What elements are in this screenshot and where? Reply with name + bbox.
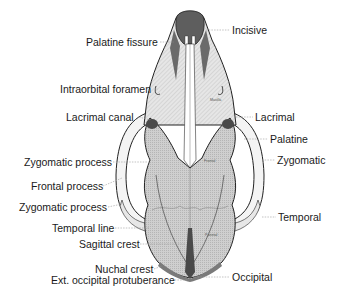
label-ext-occipital-protuberance: Ext. occipital protuberance [51,274,175,286]
bone-label-frontal: Frontal [204,159,215,163]
label-zygomatic: Zygomatic [277,154,325,166]
label-occipital: Occipital [232,271,272,283]
label-sagittal-crest: Sagittal crest [79,238,140,250]
label-incisive: Incisive [232,24,267,36]
label-zygomatic-process-1: Zygomatic process [24,156,112,168]
label-lacrimal-canal: Lacrimal canal [66,111,134,123]
bone-label-parietal: Parietal [205,233,217,237]
skull-diagram: Maxilla Frontal Parietal Palatine fissur… [0,0,338,298]
label-frontal-process: Frontal process [31,180,103,192]
label-temporal: Temporal [278,211,321,223]
skull-drawing [0,0,338,298]
label-intraorbital-foramen: Intraorbital foramen [60,83,151,95]
label-lacrimal: Lacrimal [255,111,295,123]
label-palatine-fissure: Palatine fissure [86,36,158,48]
bone-label-maxilla: Maxilla [210,98,221,102]
label-temporal-line: Temporal line [52,222,114,234]
label-zygomatic-process-2: Zygomatic process [19,201,107,213]
label-palatine: Palatine [270,133,308,145]
